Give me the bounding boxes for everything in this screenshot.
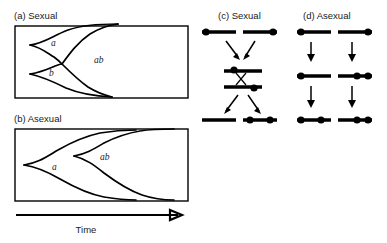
panel-d-row-gen2 [297, 72, 372, 79]
clone-label-b-panel-a: a [52, 162, 57, 172]
lineage-a-lower-edge [30, 45, 62, 64]
panel-d-arrows-gen2 [307, 42, 356, 62]
allele-dot [353, 116, 360, 123]
clone-label-ab: ab [94, 55, 104, 65]
panel-d-arrows-gen3 [307, 86, 356, 108]
clone-label-b: b [49, 68, 54, 78]
allele-dot [269, 28, 276, 35]
allele-dot [353, 72, 360, 79]
allele-dot [364, 72, 371, 79]
clone-label-a: a [51, 38, 56, 48]
allele-dot [202, 28, 209, 35]
panel-d-row-gen3 [297, 116, 372, 123]
allele-dot [250, 84, 257, 91]
arrow-head [233, 53, 240, 60]
lineage-b-panel-ab-upper [74, 129, 174, 156]
panel-d-label: (d) Asexual [303, 10, 351, 21]
arrow-head [243, 53, 250, 60]
panel-c-row-parents [202, 28, 277, 35]
panel-b-frame [15, 129, 188, 201]
arrow-head [254, 107, 261, 114]
allele-dot [297, 116, 304, 123]
panel-d-row-parents [297, 28, 372, 35]
panel-b-label: (b) Asexual [14, 113, 62, 124]
allele-dot [364, 116, 371, 123]
allele-dot [297, 28, 304, 35]
lineage-b-panel-a-upper [24, 130, 136, 165]
arrow-head [307, 54, 315, 62]
allele-dot [246, 116, 253, 123]
allele-dot [297, 72, 304, 79]
allele-dot [266, 116, 273, 123]
panel-c-converging-arrows [226, 41, 255, 60]
panel-c-row-crossover [224, 66, 262, 91]
lineage-b-inner-edge [62, 64, 112, 97]
panel-c-diverging-arrows [224, 95, 261, 114]
allele-dot [230, 66, 237, 73]
arrow-head [348, 100, 356, 108]
panel-c-row-offspring [202, 116, 277, 123]
time-axis-label: Time [76, 224, 97, 235]
evolution-figure: (a) Sexual a b ab (b) Asexual a ab Time … [0, 0, 387, 243]
arrow-head [224, 107, 231, 114]
clone-label-b-panel-ab: ab [100, 152, 110, 162]
panel-c-label: (c) Sexual [218, 10, 261, 21]
panel-a-label: (a) Sexual [14, 10, 57, 21]
lineage-b-upper-edge [30, 64, 62, 74]
lineage-b-panel-a-lower [24, 165, 136, 200]
allele-dot [364, 28, 371, 35]
allele-dot [317, 116, 324, 123]
arrow-head [348, 54, 356, 62]
arrow-head [307, 100, 315, 108]
